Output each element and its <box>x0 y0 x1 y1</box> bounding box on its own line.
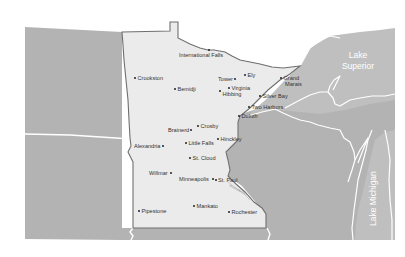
city-label: Little Falls <box>189 140 214 146</box>
city-label: Crosby <box>201 123 219 129</box>
city-crookston: Crookston <box>134 75 163 81</box>
city-marker <box>197 125 199 127</box>
city-label: Two Harbors <box>252 104 284 110</box>
city-marker <box>238 115 240 117</box>
city-marker <box>215 179 217 181</box>
city-label: Tower <box>218 76 233 82</box>
city-label: International Falls <box>179 52 223 58</box>
city-pipestone: Pipestone <box>138 208 166 214</box>
city-label: Rochester <box>232 209 258 215</box>
city-marker <box>219 90 221 92</box>
city-brainerd: Brainerd <box>168 127 192 133</box>
city-mankato: Mankato <box>193 203 218 209</box>
city-marker <box>244 74 246 76</box>
city-marker <box>162 145 164 147</box>
city-marker <box>280 77 282 79</box>
city-marker <box>134 77 136 79</box>
city-marker <box>228 87 230 89</box>
city-hibbing: Hibbing <box>219 90 241 97</box>
city-duluth: Duluth <box>238 113 258 119</box>
city-rochester: Rochester <box>228 209 257 215</box>
city-label: Duluth <box>242 113 258 119</box>
city-marker <box>248 106 250 108</box>
lake-superior-label-line1: Lake <box>349 50 368 60</box>
city-st-cloud: St. Cloud <box>189 155 216 161</box>
city-hinckley: Hinckley <box>217 136 242 142</box>
city-label-line2: Marais <box>285 81 302 87</box>
city-marker <box>138 210 140 212</box>
city-marker <box>189 157 191 159</box>
city-label: St. Paul <box>218 177 238 183</box>
city-label: Ely <box>248 72 256 78</box>
city-label: St. Cloud <box>193 155 216 161</box>
city-crosby: Crosby <box>197 123 218 129</box>
city-marker <box>234 78 236 80</box>
surrounding-land <box>25 27 122 240</box>
city-alexandria: Alexandria <box>134 143 164 149</box>
city-label: Willmar <box>149 170 168 176</box>
city-little-falls: Little Falls <box>185 140 214 146</box>
city-label: Minneapolis <box>179 176 209 182</box>
city-marker <box>193 205 195 207</box>
city-label: Alexandria <box>134 143 161 149</box>
city-marker <box>185 142 187 144</box>
city-marker <box>190 129 192 131</box>
city-label: Mankato <box>197 203 218 209</box>
surrounding-land-south <box>120 228 270 240</box>
city-label: Pipestone <box>142 208 167 214</box>
city-silver-bay: Silver Bay <box>259 93 288 99</box>
city-st-paul: St. Paul <box>215 177 238 183</box>
lake-michigan-label: Lake Michigan <box>368 171 378 226</box>
city-two-harbors: Two Harbors <box>248 104 283 110</box>
city-marker <box>217 138 219 140</box>
city-bemidji: Bemidji <box>174 86 196 92</box>
city-marker <box>174 88 176 90</box>
minnesota-map: Mississippi River International Falls Cr… <box>0 0 405 257</box>
city-minneapolis: Minneapolis <box>179 176 214 182</box>
city-label: Hinckley <box>221 136 242 142</box>
city-label: Crookston <box>138 75 164 81</box>
city-marker <box>259 95 261 97</box>
city-marker <box>212 178 214 180</box>
city-marker <box>228 211 230 213</box>
city-label: Hibbing <box>223 91 242 97</box>
city-marker <box>170 172 172 174</box>
city-label: Brainerd <box>168 127 189 133</box>
lake-superior-label-line2: Superior <box>342 61 374 71</box>
city-label: Silver Bay <box>263 93 288 99</box>
city-label: Bemidji <box>178 86 196 92</box>
